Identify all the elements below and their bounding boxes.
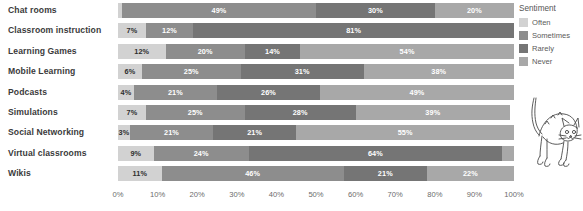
cat-illustration xyxy=(512,96,582,174)
bar-segment: 4% xyxy=(118,85,134,100)
bar-segment-label: 12% xyxy=(118,44,166,59)
bar-segment: 30% xyxy=(316,3,435,18)
bar-segment: 14% xyxy=(245,44,300,59)
x-axis-tick-label: 20% xyxy=(190,190,205,199)
bar-row: 6%25%31%38% xyxy=(118,64,514,79)
category-label: Mobile Learning xyxy=(8,61,116,81)
category-label: Social Networking xyxy=(8,122,116,142)
category-axis-labels: Chat roomsClassroom instructionLearning … xyxy=(0,0,116,186)
category-label: Wikis xyxy=(8,163,116,183)
bar-segment: 21% xyxy=(134,85,217,100)
bar-segment-label: 38% xyxy=(364,64,514,79)
bar-segment: 9% xyxy=(118,146,154,161)
bar-segment: 49% xyxy=(122,3,316,18)
category-label: Podcasts xyxy=(8,82,116,102)
bar-segment-label: 6% xyxy=(118,64,142,79)
bar-segment: 64% xyxy=(249,146,502,161)
bar-segment-label: 21% xyxy=(134,85,217,100)
x-axis-tick-label: 70% xyxy=(388,190,403,199)
bar-segment-label: 49% xyxy=(320,85,514,100)
bar-segment: 39% xyxy=(356,105,510,120)
legend-item[interactable]: Never xyxy=(519,55,581,67)
bar-segment: 7% xyxy=(118,105,146,120)
x-axis: 0%10%20%30%40%50%60%70%80%90%100% xyxy=(118,188,514,208)
x-axis-tick-label: 0% xyxy=(113,190,124,199)
bar-segment-label: 24% xyxy=(154,146,249,161)
legend-item[interactable]: Rarely xyxy=(519,42,581,54)
stacked-bar-chart: Chat roomsClassroom instructionLearning … xyxy=(0,0,583,211)
bar-segment-label: 20% xyxy=(435,3,514,18)
bar-segment: 3% xyxy=(118,125,130,140)
legend-item-label: Often xyxy=(532,18,551,27)
bar-segment-label: 9% xyxy=(118,146,154,161)
bar-segment: 55% xyxy=(296,125,514,140)
bar-segment: 28% xyxy=(245,105,356,120)
bar-segment: 54% xyxy=(300,44,514,59)
legend-swatch-icon xyxy=(519,31,528,40)
legend-item-label: Rarely xyxy=(532,44,554,53)
legend: Sentiment OftenSometimesRarelyNever xyxy=(519,4,581,68)
bar-segment-label: 25% xyxy=(146,105,245,120)
x-axis-tick-label: 50% xyxy=(308,190,323,199)
bar-segment: 12% xyxy=(146,23,194,38)
bar-segment: 22% xyxy=(427,166,514,181)
legend-item-label: Never xyxy=(532,57,552,66)
x-axis-tick-label: 100% xyxy=(504,190,523,199)
bar-segment: 26% xyxy=(217,85,320,100)
bar-segment-label: 7% xyxy=(118,105,146,120)
bar-segment: 11% xyxy=(118,166,162,181)
legend-item[interactable]: Often xyxy=(519,16,581,28)
bar-segment-label: 30% xyxy=(316,3,435,18)
bar-segment: 21% xyxy=(344,166,427,181)
bar-segment-label: 81% xyxy=(193,23,514,38)
bar-segment-label: 49% xyxy=(122,3,316,18)
category-label: Chat rooms xyxy=(8,0,116,20)
bar-segment-label: 21% xyxy=(213,125,296,140)
bar-segment: 49% xyxy=(320,85,514,100)
x-axis-tick-label: 10% xyxy=(150,190,165,199)
legend-title: Sentiment xyxy=(519,4,581,13)
bar-segment-label: 46% xyxy=(162,166,344,181)
bar-segment-label: 21% xyxy=(344,166,427,181)
bar-segment-label: 14% xyxy=(245,44,300,59)
bar-row: 4%21%26%49% xyxy=(118,85,514,100)
category-label: Virtual classrooms xyxy=(8,143,116,163)
bar-segment: 25% xyxy=(146,105,245,120)
bar-segment: 12% xyxy=(118,44,166,59)
bar-segment: 21% xyxy=(130,125,213,140)
bar-segment-label: 3% xyxy=(118,125,130,140)
bar-row: 12%20%14%54% xyxy=(118,44,514,59)
bar-row: 3%21%21%55% xyxy=(118,125,514,140)
legend-swatch-icon xyxy=(519,57,528,66)
bar-segment-label: 11% xyxy=(118,166,162,181)
bar-segment-label: 54% xyxy=(300,44,514,59)
bar-segment: 20% xyxy=(166,44,245,59)
bar-row: 11%46%21%22% xyxy=(118,166,514,181)
legend-swatch-icon xyxy=(519,18,528,27)
bar-row: 7%12%81% xyxy=(118,23,514,38)
bar-segment-label: 64% xyxy=(249,146,502,161)
bar-segment-label: 28% xyxy=(245,105,356,120)
bar-segment-label: 21% xyxy=(130,125,213,140)
bar-segment: 24% xyxy=(154,146,249,161)
bar-row: 49%30%20% xyxy=(118,3,514,18)
legend-item-label: Sometimes xyxy=(532,31,570,40)
bar-segment: 21% xyxy=(213,125,296,140)
bar-segment: 20% xyxy=(435,3,514,18)
bar-segment-label: 39% xyxy=(356,105,510,120)
category-label: Simulations xyxy=(8,102,116,122)
legend-item[interactable]: Sometimes xyxy=(519,29,581,41)
bar-row: 9%24%64% xyxy=(118,146,514,161)
bar-segment-label: 7% xyxy=(118,23,146,38)
category-label: Classroom instruction xyxy=(8,20,116,40)
bar-segment-label: 26% xyxy=(217,85,320,100)
bar-segment-label: 55% xyxy=(296,125,514,140)
bar-segment-label: 4% xyxy=(118,85,134,100)
bar-segment: 25% xyxy=(142,64,241,79)
x-axis-tick-label: 80% xyxy=(427,190,442,199)
plot-area: 49%30%20%7%12%81%12%20%14%54%6%25%31%38%… xyxy=(118,0,514,186)
legend-swatch-icon xyxy=(519,44,528,53)
x-axis-tick-label: 60% xyxy=(348,190,363,199)
x-axis-tick-label: 30% xyxy=(229,190,244,199)
x-axis-tick-label: 90% xyxy=(467,190,482,199)
